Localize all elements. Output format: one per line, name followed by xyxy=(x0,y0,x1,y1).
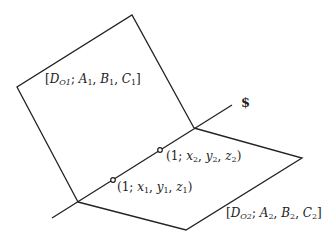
separator: ; xyxy=(71,72,75,86)
point-1-marker xyxy=(111,178,116,183)
var-x: x xyxy=(186,149,193,163)
sub-x: 2 xyxy=(193,155,198,164)
paren-open: (1; xyxy=(166,149,182,163)
sub-y: 2 xyxy=(212,155,217,164)
plane-1-outline xyxy=(17,15,194,202)
sub-d: O2 xyxy=(240,212,252,221)
bracket-close: ] xyxy=(317,206,322,220)
sub-y: 1 xyxy=(163,186,168,195)
point-2-label: (1; x2, y2, z2) xyxy=(166,150,241,164)
plane-1-label: [DO1; A1, B1, C1] xyxy=(45,73,141,87)
var-b: B xyxy=(100,72,109,86)
var-c: C xyxy=(122,72,131,86)
point-1-label: (1; x1, y1, z1) xyxy=(117,181,192,195)
var-a: A xyxy=(79,72,88,86)
paren-close: ) xyxy=(188,180,193,194)
separator: ; xyxy=(252,206,256,220)
sub-a: 1 xyxy=(88,78,93,87)
sub-b: 2 xyxy=(290,212,295,221)
sub-b: 1 xyxy=(109,78,114,87)
sub-d: O1 xyxy=(59,78,71,87)
diagram-canvas xyxy=(0,0,333,239)
var-d: D xyxy=(231,206,241,220)
var-c: C xyxy=(303,206,312,220)
line-label: $ xyxy=(241,96,250,109)
paren-close: ) xyxy=(237,149,242,163)
var-b: B xyxy=(281,206,290,220)
sub-a: 2 xyxy=(269,212,274,221)
paren-open: (1; xyxy=(117,180,133,194)
point-2-marker xyxy=(158,148,163,153)
var-a: A xyxy=(260,206,269,220)
var-d: D xyxy=(50,72,60,86)
sub-x: 1 xyxy=(144,186,149,195)
bracket-close: ] xyxy=(136,72,141,86)
var-x: x xyxy=(137,180,144,194)
plane-2-label: [DO2; A2, B2, C2] xyxy=(226,207,322,221)
